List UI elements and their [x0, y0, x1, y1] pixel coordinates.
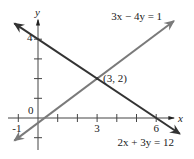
- equation-label: 2x + 3y = 12: [118, 136, 174, 148]
- annotations: (3, 2): [96, 72, 128, 85]
- x-tick-label: 0: [28, 104, 34, 116]
- chart: x y -10364 2x + 3y = 123x − 4y = 1 (3, 2…: [0, 0, 194, 159]
- tick-labels: -10364: [12, 31, 159, 134]
- x-tick-label: 3: [94, 122, 100, 134]
- x-axis-label: x: [177, 112, 183, 124]
- x-tick-label: 6: [153, 122, 159, 134]
- intersection-point: [96, 77, 99, 80]
- y-axis-label: y: [34, 6, 40, 18]
- intersection-label: (3, 2): [103, 72, 127, 85]
- x-tick-label: -1: [12, 122, 21, 134]
- equation-label: 3x − 4y = 1: [111, 10, 162, 22]
